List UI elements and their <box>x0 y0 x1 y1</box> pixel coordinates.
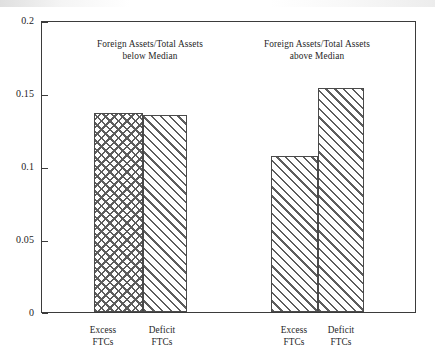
y-axis-tick-0 <box>42 313 48 314</box>
x-label-line-2: FTCs <box>78 337 128 349</box>
y-tick-label-0: 0 <box>0 308 34 318</box>
x-label-line-2: FTCs <box>269 337 319 349</box>
y-axis-tick-0.1 <box>42 168 48 169</box>
y-tick-label-0.15: 0.15 <box>0 89 34 99</box>
panel-caption-below-median: Foreign Assets/Total Assets below Median <box>55 39 245 62</box>
x-label-line-2: FTCs <box>316 337 366 349</box>
panel-caption-line-1: Foreign Assets/Total Assets <box>55 39 245 51</box>
scan-artifact <box>0 0 435 7</box>
y-tick-label-0.1: 0.1 <box>0 162 34 172</box>
y-axis-tick-0.2 <box>42 22 48 23</box>
plot-area: Foreign Assets/Total Assets below Median… <box>41 21 416 313</box>
x-label-line-1: Excess <box>269 325 319 337</box>
panel-caption-line-2: above Median <box>222 51 412 63</box>
bar-above-median-excess-ftcs[interactable] <box>271 156 318 312</box>
y-tick-label-0.05: 0.05 <box>0 235 34 245</box>
bar-above-median-deficit-ftcs[interactable] <box>318 88 364 312</box>
bar-chart-figure: 0.2 0.15 0.1 0.05 0 Foreign Assets/Total… <box>0 0 435 364</box>
x-label-line-2: FTCs <box>137 337 187 349</box>
x-label-below-median-excess-ftcs: Excess FTCs <box>78 325 128 348</box>
panel-caption-line-2: below Median <box>55 51 245 63</box>
bar-below-median-excess-ftcs[interactable] <box>94 113 143 312</box>
x-label-below-median-deficit-ftcs: Deficit FTCs <box>137 325 187 348</box>
x-label-above-median-deficit-ftcs: Deficit FTCs <box>316 325 366 348</box>
panel-caption-line-1: Foreign Assets/Total Assets <box>222 39 412 51</box>
y-axis-tick-0.15 <box>42 95 48 96</box>
x-label-line-1: Deficit <box>137 325 187 337</box>
y-tick-label-0.2: 0.2 <box>0 16 34 26</box>
x-label-above-median-excess-ftcs: Excess FTCs <box>269 325 319 348</box>
x-label-line-1: Deficit <box>316 325 366 337</box>
x-label-line-1: Excess <box>78 325 128 337</box>
bar-below-median-deficit-ftcs[interactable] <box>143 115 187 312</box>
y-axis-tick-0.05 <box>42 241 48 242</box>
panel-caption-above-median: Foreign Assets/Total Assets above Median <box>222 39 412 62</box>
